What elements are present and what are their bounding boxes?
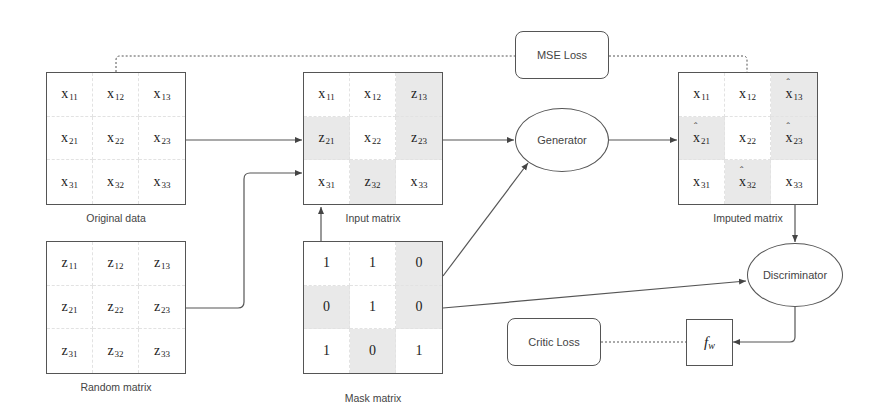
arrow-mask-to-generator	[443, 163, 528, 276]
cell-symbol: 1	[323, 255, 330, 271]
random-cell-23: z23	[139, 286, 185, 330]
cell-symbol: z	[61, 343, 67, 359]
cell-subscript: 21	[701, 136, 710, 146]
imputed-cell-33: x33	[771, 160, 817, 204]
imputed-matrix: x11x12xˆ13xˆ21x22xˆ23x31xˆ32x33	[678, 72, 818, 205]
cell-subscript: 33	[161, 349, 170, 359]
cell-subscript: 23	[162, 136, 171, 146]
original-cell-22: x22	[93, 117, 139, 161]
original-cell-21: x21	[47, 117, 93, 161]
discriminator-label: Discriminator	[763, 269, 827, 281]
cell-symbol: z	[364, 174, 370, 190]
cell-subscript: 13	[161, 261, 170, 271]
imputed-cell-22: x22	[725, 117, 771, 161]
imputed-cell-11: x11	[679, 73, 725, 117]
cell-subscript: 32	[115, 180, 124, 190]
cell-symbol: 0	[416, 255, 423, 271]
cell-symbol: z	[411, 86, 417, 102]
cell-subscript: 23	[161, 305, 170, 315]
input-cell-12: x12	[350, 73, 396, 117]
arrow-discriminator-to-fw	[733, 307, 795, 342]
original-data-label: Original data	[46, 212, 186, 224]
imputed-cell-12: x12	[725, 73, 771, 117]
hat-accent-icon: ˆ	[787, 121, 790, 132]
cell-symbol: x	[107, 86, 114, 102]
original-cell-13: x13	[139, 73, 185, 117]
mask-cell-32: 0	[350, 329, 396, 373]
original-data-matrix: x11x12x13x21x22x23x31x32x33	[46, 72, 186, 205]
hat-accent-icon: ˆ	[787, 77, 790, 88]
cell-subscript: 21	[69, 305, 78, 315]
input-cell-33: x33	[396, 160, 442, 204]
arrow-random-to-input	[186, 173, 302, 308]
cell-symbol: z	[107, 299, 113, 315]
imputed-cell-23: xˆ23	[771, 117, 817, 161]
cell-subscript: 32	[115, 349, 124, 359]
random-cell-13: z13	[139, 242, 185, 286]
input-cell-31: x31	[304, 160, 350, 204]
mask-cell-31: 1	[304, 329, 350, 373]
cell-symbol: 0	[416, 299, 423, 315]
cell-symbol: x	[693, 174, 700, 190]
random-matrix: z11z12z13z21z22z23z31z32z33	[46, 241, 186, 374]
random-cell-32: z32	[93, 329, 139, 373]
cell-subscript: 22	[372, 136, 381, 146]
cell-symbol: x	[154, 130, 161, 146]
input-matrix-label: Input matrix	[303, 212, 443, 224]
random-cell-21: z21	[47, 286, 93, 330]
cell-subscript: 31	[69, 349, 78, 359]
imputed-cell-21: xˆ21	[679, 117, 725, 161]
cell-symbol: z	[62, 255, 68, 271]
generator-node: Generator	[515, 108, 609, 172]
cell-symbol: x	[739, 86, 746, 102]
cell-subscript: 12	[115, 261, 124, 271]
cell-subscript: 13	[418, 92, 427, 102]
mse-loss-node: MSE Loss	[515, 31, 609, 79]
arrow-mask-to-discriminator	[443, 281, 746, 308]
cell-symbol: 1	[369, 255, 376, 271]
cell-subscript: 22	[115, 136, 124, 146]
cell-symbol: x	[61, 174, 68, 190]
mask-matrix-label: Mask matrix	[303, 392, 443, 404]
hat-accent-icon: ˆ	[740, 165, 743, 176]
cell-subscript: 22	[115, 305, 124, 315]
cell-subscript: 21	[326, 136, 335, 146]
cell-subscript: 32	[747, 180, 756, 190]
cell-symbol: x	[739, 130, 746, 146]
input-cell-23: z23	[396, 117, 442, 161]
input-cell-32: z32	[350, 160, 396, 204]
original-cell-32: x32	[93, 160, 139, 204]
cell-symbol: x	[61, 86, 68, 102]
cell-subscript: 32	[372, 180, 381, 190]
cell-symbol: 0	[369, 343, 376, 359]
cell-symbol: x	[693, 86, 700, 102]
random-matrix-label: Random matrix	[46, 381, 186, 393]
cell-subscript: 22	[747, 136, 756, 146]
cell-subscript: 11	[69, 261, 78, 271]
mask-cell-33: 1	[396, 329, 442, 373]
cell-symbol: x	[364, 130, 371, 146]
mask-cell-13: 0	[396, 242, 442, 286]
original-cell-23: x23	[139, 117, 185, 161]
cell-subscript: 23	[418, 136, 427, 146]
input-matrix: x11x12z13z21x22z23x31z32x33	[303, 72, 443, 205]
cell-subscript: 13	[162, 92, 171, 102]
input-cell-21: z21	[304, 117, 350, 161]
mse-loss-label: MSE Loss	[537, 49, 587, 61]
cell-symbol: x	[154, 174, 161, 190]
mse-link-right	[609, 56, 747, 72]
cell-symbol: z	[154, 299, 160, 315]
cell-symbol: x	[107, 174, 114, 190]
mask-cell-22: 1	[350, 286, 396, 330]
mask-cell-12: 1	[350, 242, 396, 286]
cell-symbol: xˆ	[786, 130, 793, 146]
cell-symbol: xˆ	[693, 130, 700, 146]
cell-symbol: x	[318, 174, 325, 190]
random-cell-31: z31	[47, 329, 93, 373]
cell-subscript: 33	[419, 180, 428, 190]
cell-symbol: z	[107, 343, 113, 359]
mask-cell-21: 0	[304, 286, 350, 330]
cell-symbol: 1	[323, 343, 330, 359]
hat-accent-icon: ˆ	[694, 121, 697, 132]
generator-label: Generator	[537, 134, 587, 146]
